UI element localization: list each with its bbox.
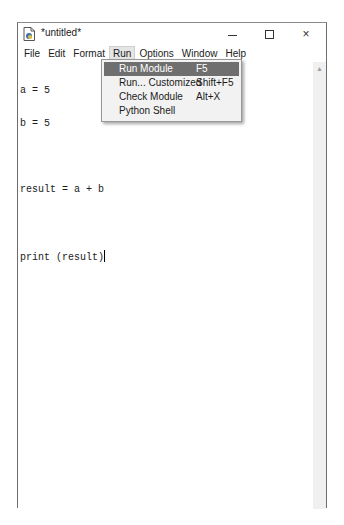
menu-item-shortcut: F5 [196,62,208,76]
menu-item-shortcut: Alt+X [196,90,220,104]
menu-item-label: Check Module [119,90,183,104]
menu-item-run-customized[interactable]: Run... Customized Shift+F5 [104,76,239,90]
close-button[interactable]: × [288,23,324,45]
maximize-icon [265,30,274,39]
close-icon: × [302,27,309,41]
menu-item-check-module[interactable]: Check Module Alt+X [104,90,239,104]
menu-item-label: Run Module [119,62,173,76]
title-bar[interactable]: *untitled* × [18,23,326,45]
code-line [20,217,310,228]
menu-item-label: Run... Customized [119,76,201,90]
scroll-up-arrow-icon[interactable]: ▲ [313,62,326,75]
menu-item-python-shell[interactable]: Python Shell [104,104,239,118]
code-editor[interactable]: a = 5 b = 5 result = a + b print (result… [18,62,312,509]
code-line [20,151,310,162]
code-text: print (result) [20,252,104,263]
menu-file[interactable]: File [20,46,44,62]
maximize-button[interactable] [251,23,287,45]
vertical-scrollbar[interactable]: ▲ [313,62,326,509]
window-title: *untitled* [41,27,81,38]
code-line: result = a + b [20,184,310,195]
text-caret [104,250,105,262]
minimize-button[interactable] [214,23,250,45]
idle-file-icon [23,27,36,41]
code-line-with-caret: print (result) [20,250,310,261]
menu-item-label: Python Shell [119,104,175,118]
menu-item-shortcut: Shift+F5 [196,76,234,90]
minimize-icon [228,35,237,36]
run-menu-dropdown: Run Module F5 Run... Customized Shift+F5… [101,59,242,122]
menu-edit[interactable]: Edit [44,46,69,62]
menu-item-run-module[interactable]: Run Module F5 [104,62,239,76]
